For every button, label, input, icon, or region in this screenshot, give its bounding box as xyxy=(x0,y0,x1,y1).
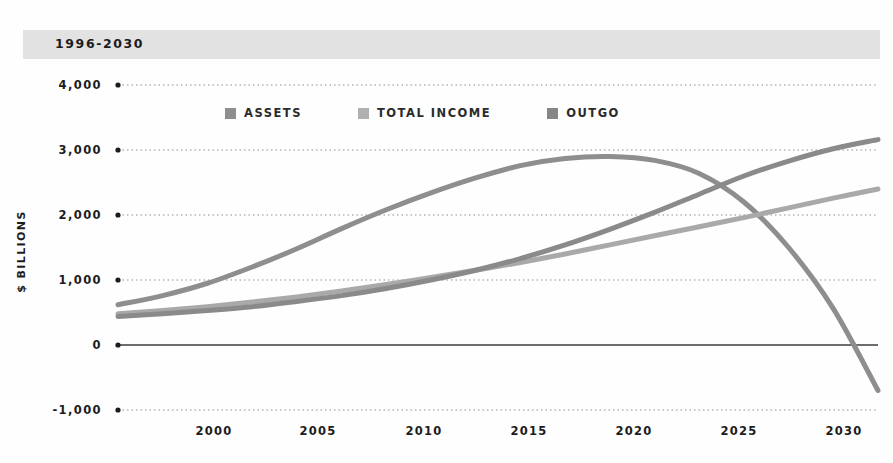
y-tick-marker xyxy=(115,212,120,217)
gridlines xyxy=(118,85,878,410)
y-tick-marker xyxy=(115,407,120,412)
series-line-outgo xyxy=(118,140,878,317)
series-line-total-income xyxy=(118,189,878,314)
y-tick-marker xyxy=(115,342,120,347)
y-tick-marker xyxy=(115,147,120,152)
y-tick-marker xyxy=(115,82,120,87)
y-tick-marker xyxy=(115,277,120,282)
chart-container: 1996-2030 ASSETS TOTAL INCOME OUTGO $ BI… xyxy=(0,0,893,463)
series-lines xyxy=(118,140,878,391)
series-line-assets xyxy=(118,156,878,390)
plot-area xyxy=(0,0,893,463)
tick-dots xyxy=(115,82,120,412)
